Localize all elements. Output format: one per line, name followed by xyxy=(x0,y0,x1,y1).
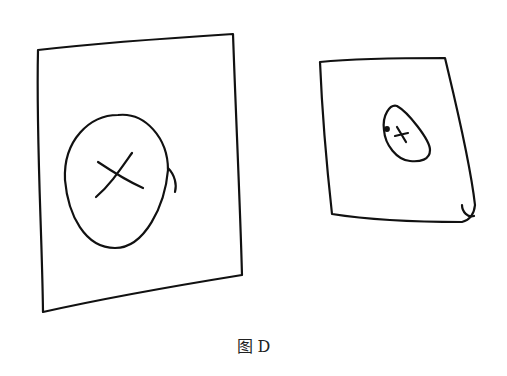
large-card xyxy=(38,34,242,312)
x-mark-small xyxy=(395,127,408,142)
figure-caption: 图 D xyxy=(0,333,507,357)
large-circle xyxy=(65,115,168,248)
hand-drawn-figure xyxy=(0,0,507,376)
small-card xyxy=(320,58,475,222)
x-mark-large xyxy=(96,153,143,197)
